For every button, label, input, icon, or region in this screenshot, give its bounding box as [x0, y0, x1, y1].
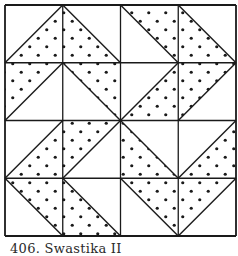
- figure-caption: 406. Swastika II: [10, 241, 122, 256]
- quilt-block-diagram: [0, 0, 238, 240]
